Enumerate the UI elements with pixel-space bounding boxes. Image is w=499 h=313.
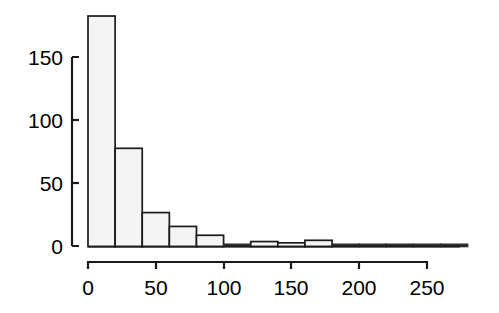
- x-tick-label-100: 100: [206, 276, 241, 299]
- bars-group: [88, 16, 468, 247]
- histogram-bar: [169, 226, 196, 246]
- histogram-plot: 150 100 50 0 0 50 100 150 200 250: [0, 0, 499, 313]
- x-axis-spine: [88, 262, 427, 269]
- histogram-bar: [88, 16, 115, 247]
- histogram-bar: [115, 148, 142, 246]
- x-tick-label-150: 150: [273, 276, 308, 299]
- y-tick-label-100: 100: [28, 109, 63, 132]
- x-tick-label-50: 50: [144, 276, 167, 299]
- histogram-bar: [196, 235, 223, 246]
- x-tick-label-200: 200: [341, 276, 376, 299]
- histogram-bar: [142, 213, 169, 247]
- y-tick-label-0: 0: [51, 235, 63, 258]
- y-axis-spine: [72, 57, 79, 246]
- y-tick-label-150: 150: [28, 46, 63, 69]
- x-tick-label-0: 0: [82, 276, 94, 299]
- histogram-figure: 150 100 50 0 0 50 100 150 200 250: [0, 0, 499, 313]
- histogram-bar: [305, 240, 332, 246]
- y-tick-label-50: 50: [40, 172, 63, 195]
- x-tick-label-250: 250: [409, 276, 444, 299]
